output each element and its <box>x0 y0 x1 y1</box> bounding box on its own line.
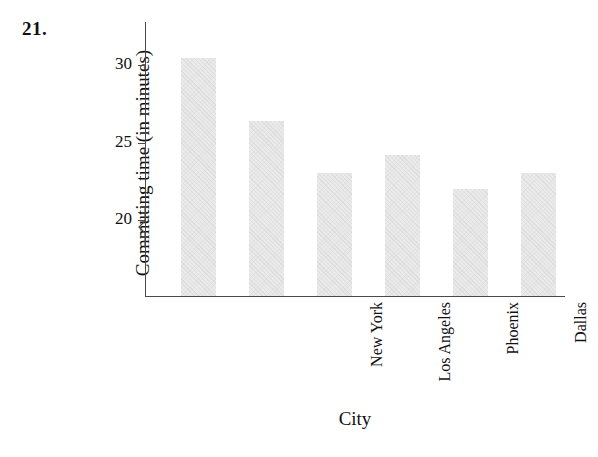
bar-los-angeles <box>249 121 284 296</box>
bar-phoenix <box>317 173 352 296</box>
x-axis-line <box>145 296 565 297</box>
y-tick-label-20: 20 <box>115 209 132 229</box>
problem-number: 21. <box>22 18 47 40</box>
bar-indianapolis <box>453 189 488 296</box>
y-tick-label-25: 25 <box>115 132 132 152</box>
y-axis-line <box>145 22 146 296</box>
axis-break-icon <box>136 208 150 248</box>
plot-area: 30 25 20 <box>145 22 565 296</box>
category-label-phoenix: Phoenix <box>504 302 522 457</box>
bar-orlando <box>521 173 556 296</box>
x-axis-title: City <box>145 408 565 430</box>
bar-new-york <box>181 58 216 296</box>
bar-dallas <box>385 155 420 296</box>
category-label-new-york: New York <box>368 302 386 457</box>
category-label-dallas: Dallas <box>572 302 590 457</box>
y-tick-30: 30 <box>138 65 146 66</box>
category-label-los-angeles: Los Angeles <box>436 302 454 457</box>
figure-bar-chart: 21. Commuting time (in minutes) 30 25 20… <box>0 0 598 457</box>
y-tick-label-30: 30 <box>115 54 132 74</box>
y-tick-25: 25 <box>138 143 146 144</box>
